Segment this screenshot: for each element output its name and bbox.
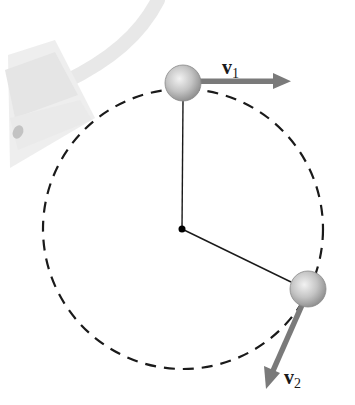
label-v1-sub: 1 [232,66,239,81]
diagram-canvas: v1 v2 [0,0,355,405]
diagram-svg [0,0,355,405]
label-v2-main: v [284,366,294,388]
label-v2: v2 [284,367,301,391]
ball-2 [290,271,326,307]
ball-1 [165,65,201,101]
string-to-ball-1 [182,100,183,229]
string-to-ball-2 [182,229,291,282]
center-point [179,226,186,233]
velocity-vector-v1 [199,73,291,89]
label-v1: v1 [222,57,239,81]
label-v1-main: v [222,56,232,78]
label-v2-sub: 2 [294,376,301,391]
pendulum-decoration-icon [5,0,158,168]
